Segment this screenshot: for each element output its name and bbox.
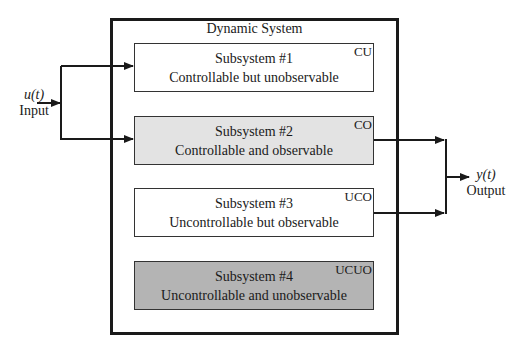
subsystem-1-block: Subsystem #1 Controllable but unobservab…	[134, 43, 374, 92]
output-text: Output	[462, 183, 510, 199]
dynamic-system-title: Dynamic System	[110, 21, 399, 37]
subsystem-2-block: Subsystem #2 Controllable and observable…	[134, 116, 374, 165]
subsystem-2-description: Controllable and observable	[135, 141, 373, 160]
input-text: Input	[14, 103, 54, 119]
input-symbol: u(t)	[14, 87, 54, 103]
subsystem-3-description: Uncontrollable but observable	[135, 213, 373, 232]
subsystem-4-description: Uncontrollable and unobservable	[135, 286, 373, 305]
subsystem-3-block: Subsystem #3 Uncontrollable but observab…	[134, 188, 374, 237]
subsystem-2-name: Subsystem #2	[135, 122, 373, 141]
subsystem-2-tag: CO	[354, 117, 372, 133]
subsystem-4-block: Subsystem #4 Uncontrollable and unobserv…	[134, 261, 374, 310]
subsystem-1-description: Controllable but unobservable	[135, 68, 373, 87]
subsystem-3-tag: UCO	[345, 189, 372, 205]
output-symbol: y(t)	[462, 167, 510, 183]
input-label: u(t) Input	[14, 87, 54, 119]
subsystem-1-tag: CU	[354, 44, 372, 60]
subsystem-4-tag: UCUO	[335, 262, 372, 278]
subsystem-1-name: Subsystem #1	[135, 49, 373, 68]
output-label: y(t) Output	[462, 167, 510, 199]
subsystem-3-name: Subsystem #3	[135, 194, 373, 213]
